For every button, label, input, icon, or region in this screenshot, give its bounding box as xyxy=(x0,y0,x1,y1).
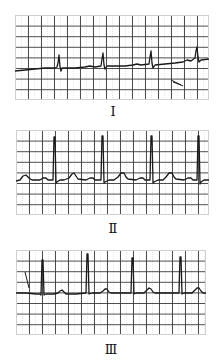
ecg-trace xyxy=(16,136,209,184)
ecg-trace xyxy=(16,254,206,295)
ecg-strip-lead-3 xyxy=(16,250,206,335)
ecg-strip-graphic xyxy=(15,15,209,100)
ecg-strip-graphic xyxy=(16,130,209,215)
ecg-strip-lead-1 xyxy=(15,15,209,100)
lead-label-2: Ⅱ xyxy=(93,222,133,236)
ecg-strip-graphic xyxy=(16,250,206,335)
ecg-trace xyxy=(15,47,209,71)
lead-label-1: Ⅰ xyxy=(93,105,133,119)
artifact-mark xyxy=(25,272,29,288)
ecg-strip-lead-2 xyxy=(16,130,209,215)
lead-label-3: Ⅲ xyxy=(91,343,131,357)
